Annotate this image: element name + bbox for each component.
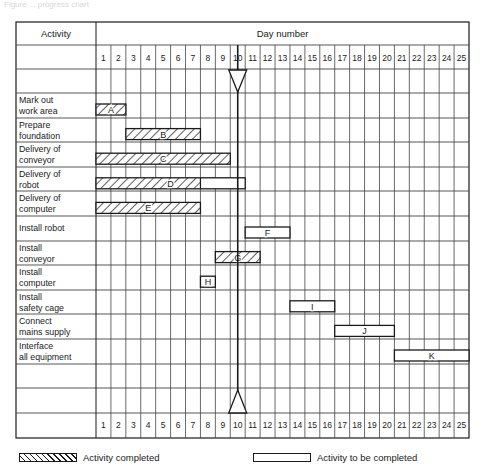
day-label-bottom: 19 — [367, 420, 377, 430]
day-label-bottom: 13 — [278, 420, 288, 430]
day-label-bottom: 23 — [427, 420, 437, 430]
day-label-bottom: 16 — [323, 420, 333, 430]
day-label-bottom: 21 — [397, 420, 407, 430]
down-triangle-marker-icon — [229, 70, 247, 92]
activity-label: Install — [19, 243, 42, 253]
activity-header: Activity — [41, 28, 71, 39]
activity-bar-D: D — [96, 178, 245, 189]
activity-label: Delivery of — [19, 169, 61, 179]
activity-label: Connect — [19, 316, 52, 326]
day-label-bottom: 11 — [248, 420, 257, 430]
activity-label: work area — [18, 106, 58, 116]
activity-label: Mark out — [19, 95, 54, 105]
day-label-top: 16 — [323, 53, 333, 63]
activity-label: Install — [19, 267, 42, 277]
day-label-top: 8 — [206, 53, 211, 63]
day-label-bottom: 14 — [293, 420, 303, 430]
activity-label: computer — [19, 204, 56, 214]
chart-grid — [16, 22, 469, 438]
day-label-top: 6 — [176, 53, 181, 63]
day-label-bottom: 2 — [116, 420, 121, 430]
activity-label: Delivery of — [19, 193, 61, 203]
activity-label: Delivery of — [19, 144, 61, 154]
day-label-top: 5 — [161, 53, 166, 63]
day-label-bottom: 24 — [442, 420, 452, 430]
activity-label: Interface — [19, 341, 53, 351]
day-label-bottom: 22 — [412, 420, 422, 430]
legend-to-be-completed: Activity to be completed — [253, 452, 417, 463]
day-label-bottom: 7 — [191, 420, 196, 430]
activity-code-label: K — [429, 351, 435, 361]
activity-bar-F: F — [245, 227, 290, 238]
activity-code-label: E — [145, 203, 151, 213]
activity-label: conveyor — [19, 155, 55, 165]
day-label-bottom: 4 — [146, 420, 151, 430]
activity-label: Install robot — [19, 223, 65, 233]
activity-code-label: F — [265, 228, 271, 238]
day-label-top: 19 — [367, 53, 377, 63]
day-label-bottom: 3 — [131, 420, 136, 430]
activity-label: robot — [19, 180, 40, 190]
day-label-bottom: 5 — [161, 420, 166, 430]
day-label-top: 21 — [397, 53, 407, 63]
activity-label: Install — [19, 292, 42, 302]
day-label-top: 9 — [220, 53, 225, 63]
activity-code-label: A — [108, 105, 114, 115]
day-label-top: 14 — [293, 53, 303, 63]
activity-label: foundation — [19, 131, 60, 141]
day-label-top: 15 — [308, 53, 318, 63]
activity-label: all equipment — [19, 352, 72, 362]
activity-code-label: J — [362, 326, 367, 336]
activity-code-label: D — [167, 179, 174, 189]
activity-bar-K: K — [394, 350, 469, 361]
day-label-bottom: 6 — [176, 420, 181, 430]
day-label-bottom: 25 — [457, 420, 467, 430]
day-label-top: 12 — [263, 53, 273, 63]
day-label-bottom: 8 — [206, 420, 211, 430]
day-label-top: 22 — [412, 53, 422, 63]
legend-to-be-completed-label: Activity to be completed — [317, 452, 417, 463]
activity-bar-H: H — [200, 276, 215, 287]
day-label-bottom: 20 — [382, 420, 392, 430]
activity-label: Prepare — [19, 120, 50, 130]
day-label-top: 4 — [146, 53, 151, 63]
day-label-bottom: 10 — [233, 420, 243, 430]
day-number-header: Day number — [257, 28, 309, 39]
day-label-top: 20 — [382, 53, 392, 63]
progress-line — [229, 45, 247, 413]
day-label-top: 3 — [131, 53, 136, 63]
legend-completed-label: Activity completed — [83, 452, 160, 463]
gantt-chart: ActivityDay number1122334455667788991010… — [0, 0, 483, 467]
activity-code-label: H — [205, 277, 212, 287]
hatched-swatch-icon — [19, 453, 77, 462]
day-label-top: 24 — [442, 53, 452, 63]
activity-label: safety cage — [19, 303, 64, 313]
day-label-top: 13 — [278, 53, 288, 63]
chart-labels: ActivityDay number1122334455667788991010… — [18, 28, 467, 430]
activity-label: computer — [19, 278, 56, 288]
day-label-top: 17 — [337, 53, 347, 63]
activity-bar-J: J — [335, 325, 395, 336]
activity-code-label: B — [160, 130, 166, 140]
up-triangle-marker-icon — [229, 390, 247, 413]
activity-bar-A: A — [96, 104, 126, 115]
activity-code-label: C — [160, 154, 167, 164]
day-label-top: 11 — [248, 53, 257, 63]
activity-label: mains supply — [19, 327, 71, 337]
activity-code-label: I — [311, 302, 314, 312]
day-label-top: 1 — [101, 53, 106, 63]
day-label-bottom: 15 — [308, 420, 318, 430]
day-label-bottom: 18 — [352, 420, 362, 430]
day-label-top: 25 — [457, 53, 467, 63]
day-label-bottom: 12 — [263, 420, 273, 430]
day-label-top: 18 — [352, 53, 362, 63]
day-label-bottom: 1 — [101, 420, 106, 430]
legend-completed: Activity completed — [19, 452, 160, 463]
day-label-bottom: 9 — [220, 420, 225, 430]
day-label-top: 7 — [191, 53, 196, 63]
day-label-bottom: 17 — [337, 420, 347, 430]
activity-bar-I: I — [290, 301, 335, 312]
activity-bar-E: E — [96, 202, 200, 213]
activity-bar-B: B — [126, 129, 201, 140]
day-label-top: 23 — [427, 53, 437, 63]
